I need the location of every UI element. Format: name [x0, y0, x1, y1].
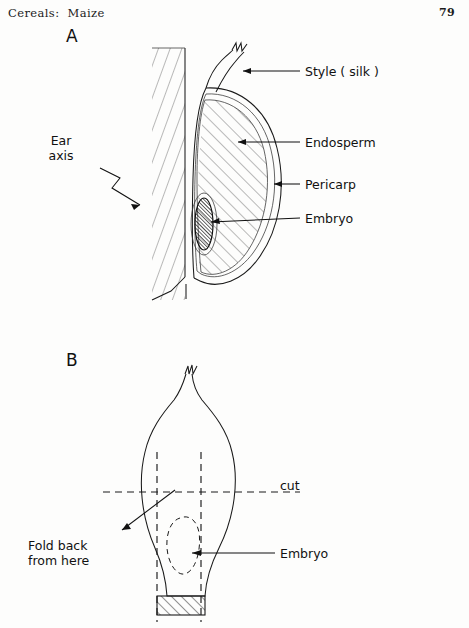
- label-embryo-figure-b: Embryo: [280, 546, 328, 561]
- embryo-a-group: [191, 193, 217, 255]
- leader-fold-back: [122, 490, 175, 530]
- label-endosperm: Endosperm: [305, 135, 376, 150]
- label-ear-axis: Ear axis: [30, 133, 92, 163]
- label-pericarp: Pericarp: [305, 177, 356, 192]
- leader-embryo-b-arrow: [192, 550, 201, 556]
- label-fold-back-from-here: Fold back from here: [28, 538, 140, 568]
- kernel-b-silk-tip: [185, 365, 197, 374]
- pedicel-base-block: [157, 596, 205, 615]
- leader-style-arrow: [243, 68, 251, 74]
- embryo-a-shape: [195, 198, 213, 250]
- kernel-b-outline: [141, 374, 235, 596]
- leader-pericarp-arrow: [274, 181, 282, 187]
- pedicel-base-group: [157, 596, 205, 615]
- ear-axis-group: [152, 48, 186, 300]
- leader-ear-axis-arrow: [131, 204, 140, 210]
- style-frayed-tip: [232, 43, 247, 51]
- page-canvas: Cereals: Maize 79 A B: [0, 0, 469, 628]
- label-cut: cut: [280, 478, 300, 493]
- label-style-silk: Style ( silk ): [305, 64, 379, 79]
- leader-ear-axis: [100, 168, 140, 205]
- figure-b-group: [103, 365, 300, 622]
- style-right-edge: [216, 52, 244, 92]
- maize-kernel-diagram: [0, 0, 469, 628]
- style-silk-group: [206, 43, 247, 92]
- embryo-b-dashed-outline: [167, 517, 200, 574]
- ear-axis-hatching: [152, 48, 185, 300]
- label-embryo-figure-a: Embryo: [305, 211, 353, 226]
